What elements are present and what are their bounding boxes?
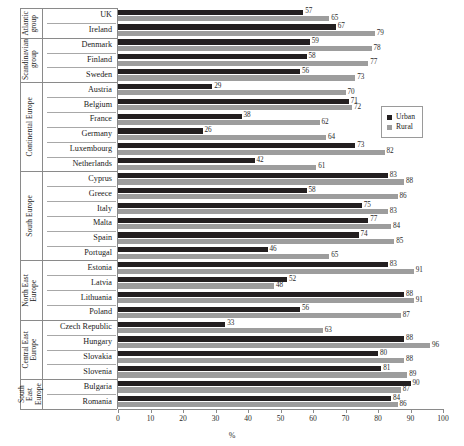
bar-urban-belgium bbox=[118, 99, 349, 104]
bar-value-label: 85 bbox=[396, 238, 403, 245]
bar-rural-portugal bbox=[118, 254, 329, 259]
bar-rural-lithuania bbox=[118, 298, 414, 303]
bar-value-label: 87 bbox=[403, 312, 410, 319]
category-label-ireland: Ireland bbox=[43, 25, 115, 35]
x-axis-label: % bbox=[0, 431, 464, 440]
x-tick bbox=[248, 409, 249, 413]
group-label-1: Scandinavian group bbox=[20, 38, 41, 83]
bar-rural-austria bbox=[118, 90, 346, 95]
bar-urban-cyprus bbox=[118, 173, 388, 178]
bar-value-label: 33 bbox=[227, 320, 234, 327]
bar-value-label: 78 bbox=[374, 45, 381, 52]
bar-urban-italy bbox=[118, 203, 362, 208]
bar-rural-malta bbox=[118, 224, 391, 229]
category-label-poland: Poland bbox=[43, 307, 115, 317]
bar-value-label: 59 bbox=[312, 38, 319, 45]
category-label-greece: Greece bbox=[43, 189, 115, 199]
category-label-latvia: Latvia bbox=[43, 278, 115, 288]
category-label-germany: Germany bbox=[43, 129, 115, 139]
bar-value-label: 58 bbox=[309, 187, 316, 194]
category-label-finland: Finland bbox=[43, 55, 115, 65]
row-separator bbox=[47, 53, 116, 54]
row-separator bbox=[47, 216, 116, 217]
bar-rural-finland bbox=[118, 61, 368, 66]
x-tick-label: 80 bbox=[374, 415, 382, 423]
category-label-france: France bbox=[43, 114, 115, 124]
bar-value-label: 57 bbox=[305, 8, 312, 15]
x-tick-label: 10 bbox=[147, 415, 155, 423]
row-separator bbox=[47, 201, 116, 202]
bar-value-label: 56 bbox=[302, 305, 309, 312]
category-label-czech-republic: Czech Republic bbox=[43, 322, 115, 332]
row-separator bbox=[47, 350, 116, 351]
bar-rural-greece bbox=[118, 194, 398, 199]
bar-value-label: 89 bbox=[409, 371, 416, 378]
bar-value-label: 79 bbox=[377, 30, 384, 37]
bar-rural-belgium bbox=[118, 105, 352, 110]
bar-urban-finland bbox=[118, 54, 307, 59]
x-tick-label: 30 bbox=[212, 415, 220, 423]
bar-urban-austria bbox=[118, 84, 212, 89]
category-label-slovakia: Slovakia bbox=[43, 352, 115, 362]
bar-rural-estonia bbox=[118, 269, 414, 274]
bar-rural-slovenia bbox=[118, 372, 407, 377]
bar-value-label: 91 bbox=[416, 267, 423, 274]
bar-urban-portugal bbox=[118, 247, 268, 252]
row-separator bbox=[47, 290, 116, 291]
bar-urban-greece bbox=[118, 188, 307, 193]
x-tick bbox=[411, 409, 412, 413]
x-tick-label: 50 bbox=[277, 415, 285, 423]
bar-urban-latvia bbox=[118, 277, 287, 282]
bar-urban-uk bbox=[118, 10, 303, 15]
bar-value-label: 58 bbox=[309, 53, 316, 60]
category-label-slovenia: Slovenia bbox=[43, 367, 115, 377]
bar-value-label: 56 bbox=[302, 68, 309, 75]
bar-rural-luxembourg bbox=[118, 150, 385, 155]
category-label-hungary: Hungary bbox=[43, 337, 115, 347]
bar-rural-france bbox=[118, 120, 320, 125]
row-separator bbox=[47, 67, 116, 68]
legend-swatch-urban-icon bbox=[387, 115, 392, 120]
category-label-italy: Italy bbox=[43, 204, 115, 214]
category-label-belgium: Belgium bbox=[43, 100, 115, 110]
bar-rural-latvia bbox=[118, 283, 274, 288]
bar-urban-luxembourg bbox=[118, 143, 355, 148]
bar-urban-hungary bbox=[118, 336, 404, 341]
plot-area: Atlantic groupUK5765Ireland6779Scandinav… bbox=[0, 0, 464, 446]
bar-rural-spain bbox=[118, 239, 394, 244]
bar-value-label: 82 bbox=[387, 148, 394, 155]
x-tick-label: 70 bbox=[342, 415, 350, 423]
x-tick-label: 20 bbox=[179, 415, 187, 423]
bar-rural-cyprus bbox=[118, 179, 404, 184]
group-label-4: North East Europe bbox=[20, 260, 41, 319]
bar-urban-slovakia bbox=[118, 351, 378, 356]
category-label-bulgaria: Bulgaria bbox=[43, 382, 115, 392]
row-separator bbox=[47, 335, 116, 336]
bar-value-label: 62 bbox=[322, 119, 329, 126]
legend-label-urban: Urban bbox=[396, 113, 415, 121]
x-tick-label: 40 bbox=[244, 415, 252, 423]
x-tick bbox=[118, 409, 119, 413]
chart-root: Atlantic groupUK5765Ireland6779Scandinav… bbox=[0, 0, 464, 446]
group-label-text: Continental Europe bbox=[26, 97, 34, 156]
bar-value-label: 52 bbox=[289, 276, 296, 283]
category-label-romania: Romania bbox=[43, 397, 115, 407]
x-tick-label: 0 bbox=[116, 415, 120, 423]
group-label-2: Continental Europe bbox=[20, 82, 41, 171]
bar-rural-netherlands bbox=[118, 165, 316, 170]
legend-swatch-rural-icon bbox=[387, 125, 392, 130]
bar-rural-denmark bbox=[118, 46, 372, 51]
bar-value-label: 70 bbox=[348, 89, 355, 96]
group-label-text: South East Europe bbox=[18, 383, 43, 405]
row-separator bbox=[47, 157, 116, 158]
bar-value-label: 88 bbox=[406, 356, 413, 363]
bar-value-label: 72 bbox=[354, 104, 361, 111]
row-separator bbox=[47, 275, 116, 276]
category-label-estonia: Estonia bbox=[43, 263, 115, 273]
row-separator bbox=[47, 23, 116, 24]
row-separator bbox=[47, 112, 116, 113]
legend-item-urban: Urban bbox=[387, 113, 415, 121]
bar-value-label: 42 bbox=[257, 157, 264, 164]
group-label-text: South Europe bbox=[26, 195, 34, 237]
bar-value-label: 83 bbox=[390, 208, 397, 215]
